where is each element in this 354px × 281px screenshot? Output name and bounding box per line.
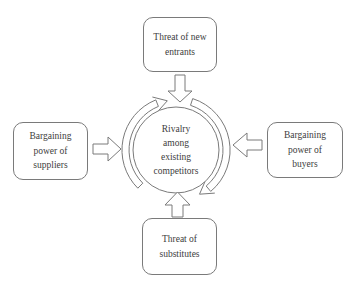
box-text-line: Bargaining bbox=[284, 128, 326, 143]
box-text-line: Bargaining bbox=[29, 129, 71, 144]
up-block-arrow-icon bbox=[165, 192, 190, 217]
threat-of-substitutes-box: Threat of substitutes bbox=[142, 218, 217, 275]
circle-text-line: competitors bbox=[154, 164, 199, 178]
down-block-arrow-icon bbox=[168, 75, 192, 102]
circle-text-line: existing bbox=[161, 150, 191, 164]
bargaining-power-of-suppliers-box: Bargaining power of suppliers bbox=[13, 122, 88, 180]
box-text-line: substitutes bbox=[159, 247, 199, 262]
rivalry-center-label: Rivalry among existing competitors bbox=[133, 107, 219, 193]
five-forces-diagram: Threat of new entrants Bargaining power … bbox=[0, 0, 354, 281]
circle-text-line: Rivalry bbox=[162, 122, 191, 136]
right-block-arrow-icon bbox=[93, 137, 121, 161]
box-text-line: buyers bbox=[292, 157, 317, 172]
box-text-line: suppliers bbox=[33, 158, 67, 173]
box-text-line: power of bbox=[33, 144, 67, 159]
box-text-line: Threat of new bbox=[153, 30, 206, 45]
box-text-line: power of bbox=[288, 143, 322, 158]
left-block-arrow-icon bbox=[233, 133, 262, 157]
circle-text-line: among bbox=[163, 136, 189, 150]
threat-of-new-entrants-box: Threat of new entrants bbox=[143, 17, 217, 72]
box-text-line: entrants bbox=[165, 45, 195, 60]
bargaining-power-of-buyers-box: Bargaining power of buyers bbox=[267, 122, 343, 178]
box-text-line: Threat of bbox=[162, 232, 197, 247]
